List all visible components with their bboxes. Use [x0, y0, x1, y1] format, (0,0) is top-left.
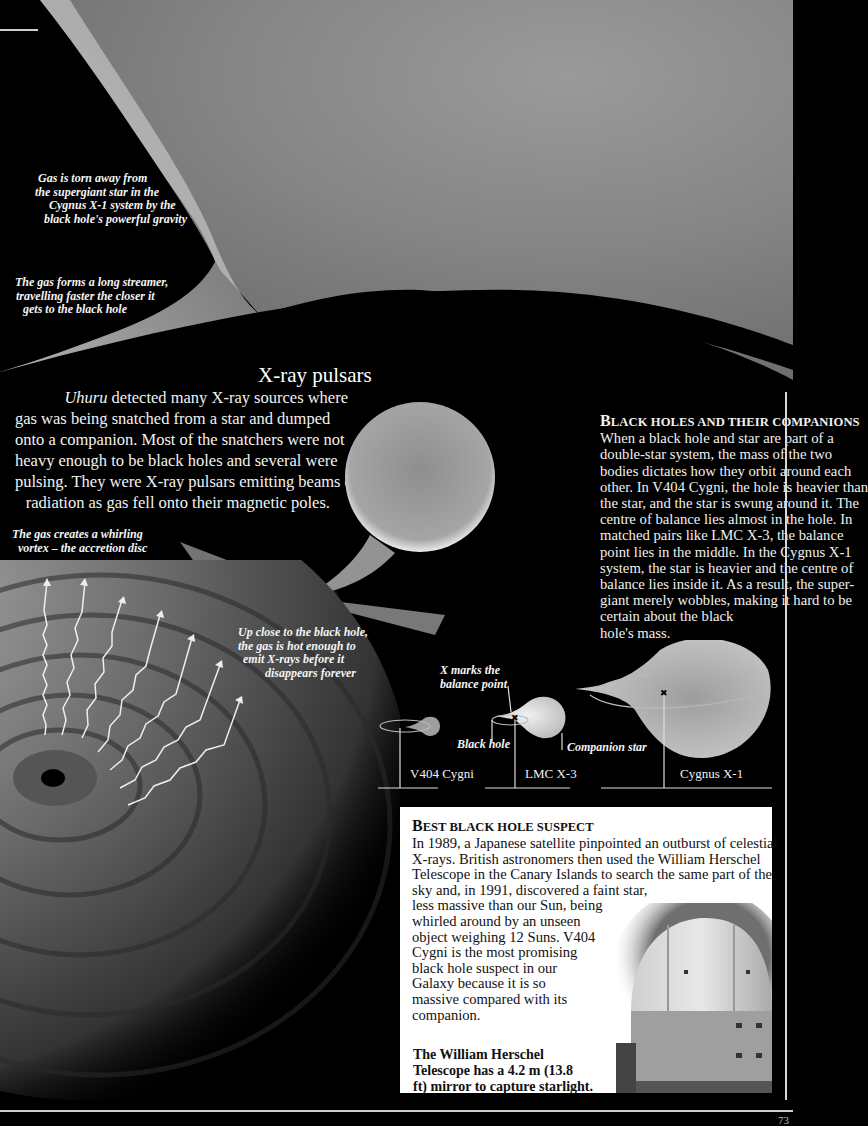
caption-line: the supergiant star in the — [35, 186, 187, 200]
caption-up-close: Up close to the black hole, the gas is h… — [238, 626, 368, 680]
body-line: certain about the black — [600, 608, 790, 624]
caption-line: black hole's powerful gravity — [44, 213, 187, 227]
body-line: whirled around by an unseen — [412, 914, 778, 930]
body-line: massive compared with its — [412, 992, 778, 1008]
body-line: companion. — [412, 1008, 778, 1024]
body-line: giant merely wobbles, making it hard to … — [600, 592, 790, 608]
caption-x-marks: X marks the balance point — [440, 664, 507, 691]
body-line: Cygni is the most promising — [412, 945, 778, 961]
caption-accretion-vortex: The gas creates a whirling vortex – the … — [12, 528, 147, 555]
body-line: point lies in the middle. In the Cygnus … — [600, 544, 790, 560]
body-line: other. In V404 Cygni, the hole is heavie… — [600, 479, 790, 495]
caption-line: vortex – the accretion disc — [18, 542, 147, 556]
body-line: system, the star is heavier and the cent… — [600, 560, 790, 576]
bottom-rule — [0, 1110, 793, 1112]
body-line: sky and, in 1991, discovered a faint sta… — [412, 883, 778, 899]
body-line: balance lies inside it. As a result, the… — [600, 576, 790, 592]
svg-text:✖: ✖ — [660, 688, 668, 698]
body-line: bodies dictates how they orbit around ea… — [600, 463, 790, 479]
caption-line: travelling faster the closer it — [16, 290, 168, 304]
label-lmc-x3: LMC X-3 — [525, 766, 577, 782]
caption-line: emit X-rays before it — [243, 653, 368, 667]
body-line: In 1989, a Japanese satellite pinpointed… — [412, 836, 778, 852]
body-line: Galaxy because it is so — [412, 976, 778, 992]
body-line: double-star system, the mass of the two — [600, 446, 790, 462]
label-v404-cygni: V404 Cygni — [410, 766, 474, 782]
caption-line: The gas creates a whirling — [12, 528, 147, 542]
label-cygnus-x1: Cygnus X-1 — [680, 766, 743, 782]
body-line: black hole suspect in our — [412, 961, 778, 977]
suspect-body: In 1989, a Japanese satellite pinpointed… — [412, 836, 778, 1023]
caption-line: disappears forever — [265, 667, 368, 681]
caption-line: Gas is torn away from — [38, 172, 187, 186]
caption-line: X marks the — [440, 664, 507, 678]
body-line: centre of balance lies almost in the hol… — [600, 511, 790, 527]
body-line: When a black hole and star are part of a — [600, 430, 790, 446]
body-line: object weighing 12 Suns. V404 — [412, 930, 778, 946]
caption-line: The gas forms a long streamer, — [15, 276, 168, 290]
body-line: hole's mass. — [600, 625, 790, 641]
section-heading: BEST BLACK HOLE SUSPECT — [412, 817, 594, 835]
caption-line: ft) mirror to capture starlight. — [413, 1079, 593, 1095]
body-line: the star, and the star is swung around i… — [600, 495, 790, 511]
body-line: less massive than our Sun, being — [412, 898, 778, 914]
label-black-hole: Black hole — [457, 738, 510, 752]
top-rule — [0, 29, 38, 31]
body-line: Telescope in the Canary Islands to searc… — [412, 867, 778, 883]
caption-line: Up close to the black hole, — [238, 626, 368, 640]
caption-gas-torn: Gas is torn away from the supergiant sta… — [38, 172, 187, 226]
svg-text:✖: ✖ — [511, 713, 519, 723]
label-companion-star: Companion star — [567, 741, 647, 755]
caption-line: gets to the black hole — [23, 303, 168, 317]
caption-line: The William Herschel — [413, 1047, 593, 1063]
caption-line: Cygnus X-1 system by the — [49, 199, 187, 213]
caption-gas-streamer: The gas forms a long streamer, travellin… — [15, 276, 168, 317]
best-suspect-box: BEST BLACK HOLE SUSPECT In 1989, a Japan… — [400, 807, 772, 1093]
caption-line: the gas is hot enough to — [238, 640, 368, 654]
uhuru-satellite-name: Uhuru — [64, 388, 107, 407]
section-title-xray-pulsars: X-ray pulsars — [258, 363, 372, 388]
black-holes-companions-section: BLACK HOLES AND THEIR COMPANIONS When a … — [600, 413, 790, 641]
body-line: matched pairs like LMC X-3, the balance — [600, 527, 790, 543]
caption-telescope: The William Herschel Telescope has a 4.2… — [413, 1047, 593, 1095]
page-number: 73 — [778, 1114, 789, 1126]
body-line: X-rays. British astronomers then used th… — [412, 852, 778, 868]
caption-line: balance point — [440, 678, 507, 692]
section-heading: BLACK HOLES AND THEIR COMPANIONS — [600, 413, 790, 430]
binary-systems-diagram: ✖ ✖ X marks the balance point Black hole… — [370, 640, 793, 800]
caption-line: Telescope has a 4.2 m (13.8 — [413, 1063, 593, 1079]
